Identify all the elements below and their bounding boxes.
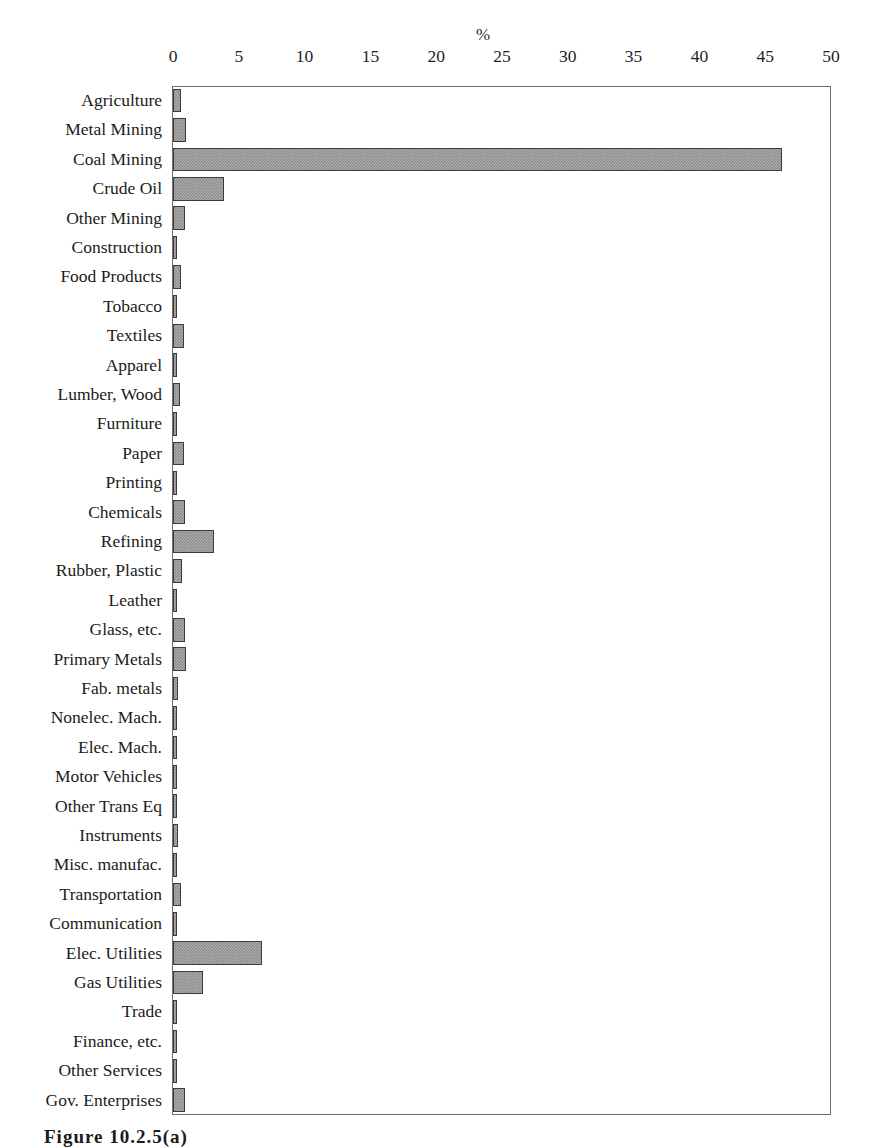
bar-track	[173, 351, 831, 380]
category-label-chemicals: Chemicals	[0, 498, 162, 527]
bar-other-mining	[173, 206, 185, 230]
bar-row: Lumber, Wood	[0, 380, 874, 409]
category-label-transportation: Transportation	[0, 880, 162, 909]
bar-row: Finance, etc.	[0, 1027, 874, 1056]
bar-row: Paper	[0, 439, 874, 468]
bar-track	[173, 321, 831, 350]
bar-communication	[173, 912, 177, 936]
bar-track	[173, 468, 831, 497]
bar-track	[173, 204, 831, 233]
x-tick-label-45: 45	[735, 46, 795, 66]
bar-nonelec-mach	[173, 706, 177, 730]
bar-track	[173, 174, 831, 203]
bar-row: Gas Utilities	[0, 968, 874, 997]
x-axis-tick-labels: 05101520253035404550	[0, 46, 874, 70]
bar-leather	[173, 589, 177, 613]
bar-coal-mining	[173, 148, 782, 172]
bar-track	[173, 1056, 831, 1085]
bar-track	[173, 233, 831, 262]
x-tick-label-30: 30	[538, 46, 598, 66]
bar-row: Agriculture	[0, 86, 874, 115]
bar-row: Fab. metals	[0, 674, 874, 703]
bar-elec-utilities	[173, 941, 262, 965]
category-label-tobacco: Tobacco	[0, 292, 162, 321]
bar-row: Elec. Utilities	[0, 939, 874, 968]
bar-track	[173, 527, 831, 556]
bar-track	[173, 703, 831, 732]
bar-track	[173, 939, 831, 968]
bar-row: Food Products	[0, 262, 874, 291]
x-tick-label-0: 0	[143, 46, 203, 66]
category-label-misc-manufac: Misc. manufac.	[0, 850, 162, 879]
bar-row: Other Trans Eq	[0, 792, 874, 821]
bar-metal-mining	[173, 118, 186, 142]
category-label-leather: Leather	[0, 586, 162, 615]
bar-tobacco	[173, 295, 177, 319]
bar-track	[173, 880, 831, 909]
bar-lumber-wood	[173, 383, 180, 407]
x-tick-label-35: 35	[604, 46, 664, 66]
bar-track	[173, 997, 831, 1026]
category-label-paper: Paper	[0, 439, 162, 468]
category-label-motor-vehicles: Motor Vehicles	[0, 762, 162, 791]
bar-row: Other Services	[0, 1056, 874, 1085]
bar-misc-manufac	[173, 853, 177, 877]
bar-track	[173, 909, 831, 938]
category-label-coal-mining: Coal Mining	[0, 145, 162, 174]
bar-row: Furniture	[0, 409, 874, 438]
bar-track	[173, 615, 831, 644]
bar-track	[173, 674, 831, 703]
axis-title-percent: %	[463, 26, 503, 44]
category-label-gas-utilities: Gas Utilities	[0, 968, 162, 997]
bar-crude-oil	[173, 177, 224, 201]
bar-row: Instruments	[0, 821, 874, 850]
bar-elec-mach	[173, 736, 177, 760]
bar-track	[173, 115, 831, 144]
category-label-rubber-plastic: Rubber, Plastic	[0, 556, 162, 585]
bar-row: Textiles	[0, 321, 874, 350]
bar-track	[173, 409, 831, 438]
category-label-apparel: Apparel	[0, 351, 162, 380]
bar-motor-vehicles	[173, 765, 177, 789]
bar-row: Other Mining	[0, 204, 874, 233]
bar-row: Apparel	[0, 351, 874, 380]
bar-gov-enterprises	[173, 1088, 185, 1112]
bar-furniture	[173, 412, 177, 436]
bar-track	[173, 792, 831, 821]
bar-track	[173, 762, 831, 791]
category-label-finance-etc: Finance, etc.	[0, 1027, 162, 1056]
bar-fab-metals	[173, 677, 178, 701]
category-label-glass-etc: Glass, etc.	[0, 615, 162, 644]
category-label-other-trans-eq: Other Trans Eq	[0, 792, 162, 821]
bar-track	[173, 645, 831, 674]
bar-row: Communication	[0, 909, 874, 938]
x-tick-label-40: 40	[669, 46, 729, 66]
category-label-instruments: Instruments	[0, 821, 162, 850]
bar-track	[173, 86, 831, 115]
x-tick-label-5: 5	[209, 46, 269, 66]
bar-row: Coal Mining	[0, 145, 874, 174]
category-label-metal-mining: Metal Mining	[0, 115, 162, 144]
bar-chemicals	[173, 500, 185, 524]
bar-track	[173, 1086, 831, 1115]
bar-printing	[173, 471, 177, 495]
category-label-textiles: Textiles	[0, 321, 162, 350]
bar-track	[173, 380, 831, 409]
bar-row: Gov. Enterprises	[0, 1086, 874, 1115]
category-label-food-products: Food Products	[0, 262, 162, 291]
bar-track	[173, 292, 831, 321]
bar-paper	[173, 442, 184, 466]
bar-row: Metal Mining	[0, 115, 874, 144]
bar-row: Leather	[0, 586, 874, 615]
bar-other-trans-eq	[173, 794, 177, 818]
x-tick-label-10: 10	[275, 46, 335, 66]
bar-track	[173, 498, 831, 527]
bar-row: Transportation	[0, 880, 874, 909]
bar-row: Tobacco	[0, 292, 874, 321]
category-label-agriculture: Agriculture	[0, 86, 162, 115]
category-label-crude-oil: Crude Oil	[0, 174, 162, 203]
bar-row: Motor Vehicles	[0, 762, 874, 791]
category-label-communication: Communication	[0, 909, 162, 938]
x-tick-label-25: 25	[472, 46, 532, 66]
category-label-furniture: Furniture	[0, 409, 162, 438]
